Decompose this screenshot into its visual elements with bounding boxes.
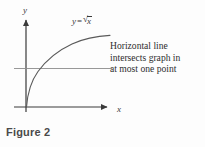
- y-axis-label: y: [23, 6, 27, 15]
- figure-container: y x y=√x Horizontal line intersects grap…: [0, 0, 205, 147]
- radical-expression: √x: [83, 15, 92, 26]
- sqrt-curve: [27, 35, 111, 107]
- curve-equation-label: y=√x: [72, 15, 92, 26]
- radical-sign-icon: √: [83, 15, 88, 24]
- figure-caption: Figure 2: [6, 126, 50, 138]
- annotation-line-2: intersects graph in: [110, 52, 205, 64]
- annotation-line-3: at most one point: [110, 63, 205, 75]
- annotation-line-1: Horizontal line: [110, 40, 205, 52]
- x-axis-label: x: [117, 105, 121, 114]
- equation-operator: =: [76, 16, 83, 26]
- annotation-text-block: Horizontal line intersects graph in at m…: [110, 40, 205, 75]
